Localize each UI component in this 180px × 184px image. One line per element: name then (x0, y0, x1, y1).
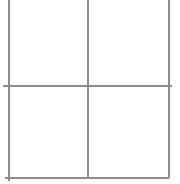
grid-horizontal-line (5, 177, 169, 179)
grid-horizontal-line (3, 85, 172, 87)
grid-vertical-line (8, 0, 10, 181)
grid-vertical-line (168, 0, 170, 178)
grid-vertical-line (87, 0, 89, 178)
blank-grid-diagram (0, 0, 180, 184)
